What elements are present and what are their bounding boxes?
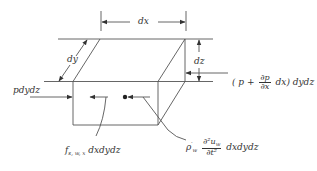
bottom-right-slant <box>158 82 185 126</box>
right-pressure-close: dx) dydz <box>276 77 315 87</box>
body-force-dxdydz: dxdydz <box>88 145 120 155</box>
dx-denominator: ∂x <box>261 83 270 91</box>
centroid-dot <box>123 95 127 99</box>
body-force-subscript: s, w, x <box>68 150 85 156</box>
inertia-leader <box>143 97 186 140</box>
left-pressure-label: pdydz <box>13 86 40 95</box>
right-pressure-open: ( p + <box>232 77 255 87</box>
dt2-denominator: ∂t² <box>206 149 217 157</box>
rho-subscript: w <box>193 147 198 153</box>
dy-label: dy <box>67 55 78 64</box>
body-force-leader <box>96 97 106 136</box>
dz-label: dz <box>194 57 205 66</box>
d2u-text: ∂²u <box>203 137 216 146</box>
u-subscript: w <box>216 141 221 147</box>
dp-dx-fraction: ∂p ∂x <box>259 74 270 92</box>
body-force-label: fs, w, x dxdydz <box>65 146 120 157</box>
dx-label: dx <box>138 17 149 26</box>
inertia-dxdydz: dxdydz <box>226 142 258 152</box>
dy-arrow-down <box>59 65 70 81</box>
right-pressure-label: ( p + ∂p ∂x dx) dydz <box>232 74 314 92</box>
d2u-dt2-fraction: ∂²uw ∂t² <box>202 138 221 157</box>
inertia-label: ρ′w ∂²uw ∂t² dxdydz <box>186 138 258 157</box>
top-right-slant <box>158 39 185 82</box>
